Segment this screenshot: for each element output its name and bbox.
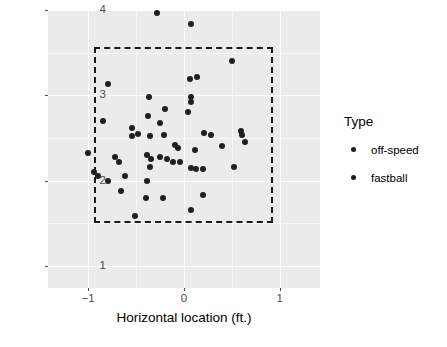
gridline-v-major bbox=[280, 10, 281, 288]
x-tick-mark bbox=[184, 288, 185, 291]
y-tick-mark bbox=[45, 10, 48, 11]
data-point bbox=[85, 150, 91, 156]
y-axis-title: Vertical location (ft.) bbox=[6, 10, 24, 288]
legend-title: Type bbox=[344, 115, 444, 129]
legend: Type off-speed fastball bbox=[344, 115, 444, 195]
dot-marker-icon bbox=[344, 141, 362, 159]
data-point bbox=[188, 21, 194, 27]
y-tick-mark bbox=[45, 95, 48, 96]
dot-marker-icon bbox=[344, 169, 362, 187]
plot-panel bbox=[48, 10, 320, 288]
x-tick-mark bbox=[88, 288, 89, 291]
x-tick-label: 0 bbox=[164, 293, 204, 305]
gridline-v-major bbox=[88, 10, 89, 288]
data-point bbox=[154, 10, 160, 16]
legend-item-fastball[interactable]: fastball bbox=[344, 167, 444, 189]
x-tick-label: −1 bbox=[68, 293, 108, 305]
legend-item-label: fastball bbox=[371, 172, 407, 184]
y-tick-label: 3 bbox=[100, 89, 106, 101]
x-tick-label: 1 bbox=[260, 293, 300, 305]
strike-zone-rectangle bbox=[94, 47, 273, 224]
y-tick-mark bbox=[45, 181, 48, 182]
scatter-plot-figure: 1234 Vertical location (ft.) −101 Horizo… bbox=[0, 0, 447, 347]
y-axis-title-text: Vertical location (ft.) bbox=[10, 0, 28, 28]
y-tick-label: 2 bbox=[100, 175, 106, 187]
y-tick-mark bbox=[45, 266, 48, 267]
x-tick-mark bbox=[280, 288, 281, 291]
legend-item-off-speed[interactable]: off-speed bbox=[344, 139, 444, 161]
y-tick-label: 1 bbox=[100, 260, 106, 272]
legend-item-label: off-speed bbox=[371, 144, 419, 156]
y-tick-label: 4 bbox=[100, 4, 106, 16]
x-axis-title-text: Horizontal location (ft.) bbox=[48, 310, 320, 325]
